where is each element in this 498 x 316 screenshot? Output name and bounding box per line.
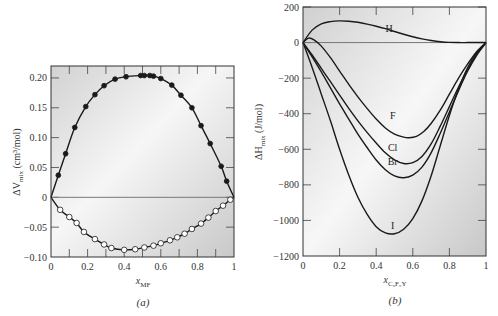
y-axis-title-a: ΔVmix (cm³/mol)	[11, 128, 25, 195]
x-tick-label: 0.4	[118, 261, 131, 272]
y-tick-label: −1000	[273, 215, 299, 226]
open-data-point	[167, 237, 173, 243]
filled-data-point	[113, 77, 118, 82]
filled-data-point	[93, 92, 98, 97]
xlabel-sub-a: MF	[140, 281, 150, 289]
open-data-point	[158, 240, 164, 246]
open-data-point	[81, 229, 87, 235]
filled-data-point	[72, 125, 77, 130]
open-data-point	[174, 235, 180, 241]
filled-data-point	[124, 74, 129, 79]
filled-data-point	[63, 151, 68, 156]
y-axis-title-b: ΔHmix (J/mol)	[253, 104, 267, 160]
open-data-point	[67, 214, 73, 220]
filled-data-point	[142, 73, 147, 78]
xlabel-sub-b: C₆F₅Y	[388, 280, 407, 288]
filled-data-point	[179, 93, 184, 98]
y-tick-labels-b: −1200−1000−800−600−400−2000200	[273, 2, 299, 262]
filled-data-point	[190, 105, 195, 110]
filled-data-point	[56, 173, 61, 178]
curve-label-f: F	[390, 110, 396, 121]
figure: −0.10−0.0500.050.100.150.20 00.20.40.60.…	[0, 0, 498, 316]
x-tick-label: 0.8	[443, 260, 456, 271]
y-tick-label: 200	[284, 2, 299, 13]
y-tick-label: 0	[294, 37, 299, 48]
y-tick-labels-a: −0.10−0.0500.050.100.150.20	[24, 72, 47, 262]
filled-data-point	[208, 141, 213, 146]
open-data-point	[142, 245, 148, 251]
x-tick-label: 0.2	[81, 261, 94, 272]
filled-data-point	[102, 83, 107, 88]
filled-data-point	[224, 179, 229, 184]
open-data-point	[121, 247, 127, 253]
y-tick-label: −400	[278, 108, 299, 119]
x-axis-title-a: xMF	[135, 275, 151, 289]
y-tick-label: −800	[278, 179, 299, 190]
open-data-point	[92, 236, 98, 242]
open-data-point	[182, 231, 188, 237]
ylabel-main-b: ΔH	[253, 146, 264, 160]
curve-label-cl: Cl	[388, 142, 398, 153]
y-tick-label: 0.20	[30, 72, 48, 83]
x-tick-label: 0.8	[191, 261, 204, 272]
open-data-point	[74, 220, 80, 226]
x-tick-label: 0.4	[370, 260, 383, 271]
x-tick-label: 0.6	[155, 261, 168, 272]
curve-label-i: I	[391, 220, 394, 231]
y-tick-label: −0.10	[24, 252, 47, 263]
filled-data-point	[199, 123, 204, 128]
x-tick-label: 1	[484, 260, 489, 271]
filled-data-point	[158, 76, 163, 81]
filled-data-point	[219, 164, 224, 169]
x-tick-labels-b: 00.20.40.60.81	[301, 260, 489, 271]
plot-area-b	[303, 7, 486, 256]
y-tick-label: 0	[42, 192, 47, 203]
panel-label-b: (b)	[389, 294, 402, 307]
curve-label-h: H	[385, 23, 392, 34]
open-data-point	[109, 245, 115, 251]
ylabel-unit-b: (J/mol)	[253, 104, 265, 135]
y-tick-label: 0.15	[30, 102, 48, 113]
ylabel-unit-a: (cm³/mol)	[11, 128, 23, 171]
filled-data-point	[83, 104, 88, 109]
open-data-point	[101, 242, 107, 248]
x-tick-label: 0	[49, 261, 54, 272]
x-tick-label: 0	[301, 260, 306, 271]
x-tick-labels-a: 00.20.40.60.81	[49, 261, 237, 272]
open-data-point	[132, 246, 138, 252]
y-tick-label: 0.10	[30, 132, 48, 143]
open-data-point	[220, 203, 226, 209]
filled-data-point	[169, 83, 174, 88]
ylabel-sub-b: mix	[259, 135, 267, 146]
ylabel-sub-a: mix	[17, 171, 25, 182]
x-tick-label: 0.2	[333, 260, 346, 271]
open-data-point	[213, 208, 219, 214]
filled-data-point	[151, 74, 156, 79]
open-data-point	[228, 197, 234, 203]
y-tick-label: 0.05	[30, 162, 48, 173]
open-data-point	[189, 226, 195, 232]
x-tick-label: 1	[232, 261, 237, 272]
open-data-point	[151, 243, 157, 249]
y-tick-label: −200	[278, 73, 299, 84]
panel-label-a: (a)	[137, 296, 150, 309]
open-data-point	[206, 215, 212, 221]
x-tick-label: 0.6	[407, 260, 420, 271]
chart-panel-a: −0.10−0.0500.050.100.150.20 00.20.40.60.…	[11, 66, 237, 309]
curve-label-br: Br	[388, 156, 399, 167]
y-tick-label: −600	[278, 144, 299, 155]
y-tick-label: −0.05	[24, 222, 47, 233]
plot-area-a	[51, 66, 234, 257]
open-data-point	[57, 207, 63, 213]
x-axis-title-b: xC₆F₅Y	[383, 274, 407, 288]
open-data-point	[198, 221, 204, 227]
ylabel-main-a: ΔV	[11, 181, 22, 195]
y-tick-label: −1200	[273, 251, 299, 262]
chart-panel-b: HFClBrI −1200−1000−800−600−400−2000200 0…	[253, 2, 489, 308]
